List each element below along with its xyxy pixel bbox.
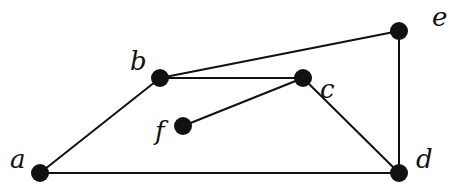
edges-group: [40, 31, 399, 173]
node-label-d: d: [416, 144, 433, 174]
node-a: [31, 164, 49, 182]
node-c: [294, 69, 312, 87]
labels-group: abcdef: [10, 2, 447, 174]
node-b: [151, 69, 169, 87]
nodes-group: [31, 22, 408, 182]
node-label-e: e: [432, 2, 447, 32]
node-label-c: c: [320, 74, 335, 104]
node-e: [390, 22, 408, 40]
node-label-b: b: [130, 46, 147, 76]
node-label-a: a: [10, 144, 26, 174]
node-d: [390, 164, 408, 182]
edge-b-e: [160, 31, 399, 78]
node-f: [174, 117, 192, 135]
edge-c-d: [303, 78, 399, 173]
node-label-f: f: [153, 116, 169, 146]
edge-a-b: [40, 78, 160, 173]
graph-diagram: abcdef: [0, 0, 462, 195]
edge-c-f: [183, 78, 303, 126]
